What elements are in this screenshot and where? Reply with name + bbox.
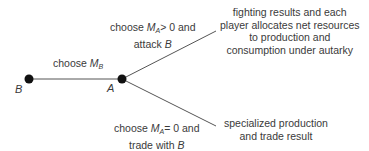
- node-b: [25, 75, 34, 84]
- edge-label-attack: choose MA> 0 and attack B: [110, 21, 196, 50]
- edge-label-choose-mb: choose MB: [53, 57, 103, 74]
- outcome-fight: fighting results and each player allocat…: [220, 6, 360, 56]
- node-b-label: B: [15, 83, 22, 95]
- edge-a-trade: [122, 79, 216, 126]
- node-a: [118, 75, 127, 84]
- edge-label-trade: choose MA= 0 and trade with B: [114, 122, 200, 151]
- node-a-label: A: [107, 82, 114, 94]
- outcome-trade: specialized production and trade result: [224, 117, 328, 142]
